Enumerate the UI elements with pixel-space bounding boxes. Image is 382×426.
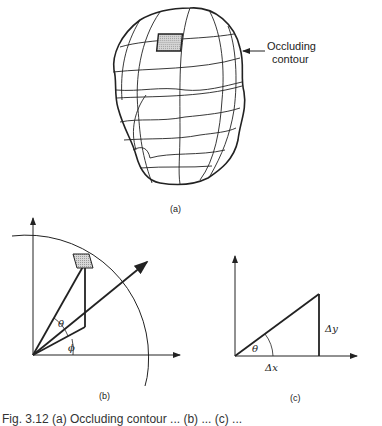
panel-b-diagram bbox=[12, 218, 180, 386]
delta-x-label: Δx bbox=[264, 362, 278, 373]
theta-label-b: θ bbox=[58, 318, 64, 329]
theta-label-c: θ bbox=[252, 343, 258, 354]
hypotenuse bbox=[235, 294, 319, 356]
panel-c-diagram bbox=[235, 256, 357, 356]
occluding-label-line1: Occluding bbox=[267, 40, 316, 52]
panel-a-label: (a) bbox=[170, 204, 181, 214]
panel-b-label: (b) bbox=[99, 391, 110, 401]
occluding-label-line2: contour bbox=[272, 53, 309, 65]
delta-y-label: Δy bbox=[324, 323, 338, 334]
panel-c-label: (c) bbox=[290, 393, 301, 403]
surface-patch-b bbox=[73, 254, 93, 268]
viewing-direction-vector bbox=[33, 262, 147, 355]
figure-caption: Fig. 3.12 (a) Occluding contour ... (b) … bbox=[2, 412, 242, 426]
surface-patch-a bbox=[157, 34, 183, 51]
theta-arc-c bbox=[265, 334, 273, 356]
phi-label-b: ϕ bbox=[68, 342, 75, 353]
